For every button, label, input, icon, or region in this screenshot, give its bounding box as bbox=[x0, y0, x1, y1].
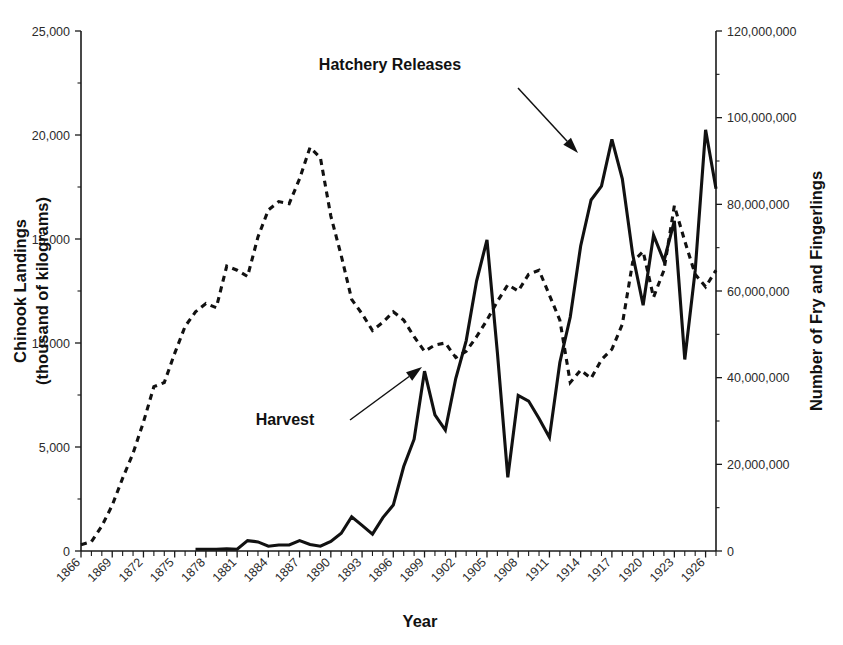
y-axis-title-line2: (thousand of kilograms) bbox=[33, 197, 51, 385]
x-tick-label: 1911 bbox=[523, 555, 552, 584]
series-hatchery-releases-line bbox=[196, 130, 716, 549]
x-tick-label: 1917 bbox=[584, 555, 614, 585]
x-tick-label: 1899 bbox=[397, 555, 427, 585]
chart-annotations: Hatchery ReleasesHarvest bbox=[256, 56, 578, 428]
y2-axis-title: Number of Fry and Fingerlings bbox=[807, 171, 825, 411]
left-tick-label: 0 bbox=[63, 545, 70, 559]
y-axis-title-line1: Chinook Landings bbox=[11, 219, 29, 363]
right-tick-label: 100,000,000 bbox=[727, 111, 797, 125]
x-tick-label: 1914 bbox=[553, 555, 583, 585]
x-tick-label: 1878 bbox=[178, 555, 208, 585]
x-tick-label: 1905 bbox=[460, 555, 490, 585]
left-tick-label: 20,000 bbox=[32, 129, 70, 143]
right-tick-label: 0 bbox=[727, 545, 734, 559]
right-tick-label: 60,000,000 bbox=[727, 285, 790, 299]
x-tick-label: 1866 bbox=[54, 555, 84, 585]
right-tick-label: 120,000,000 bbox=[727, 25, 797, 39]
annotation-label-hatchery-releases: Hatchery Releases bbox=[319, 56, 461, 73]
x-tick-label: 1923 bbox=[647, 555, 677, 585]
right-axis-ticks bbox=[716, 31, 722, 551]
chart-figure: 05,00010,00015,00020,00025,000 020,000,0… bbox=[0, 0, 843, 645]
x-tick-label: 1890 bbox=[303, 555, 333, 585]
x-tick-label: 1869 bbox=[85, 555, 115, 585]
x-tick-label: 1908 bbox=[491, 555, 521, 585]
annotation-arrow-line-hatchery-releases bbox=[518, 88, 567, 141]
x-axis-tick-labels: 1866186918721875187818811884188718901893… bbox=[54, 555, 708, 585]
right-tick-label: 40,000,000 bbox=[727, 371, 790, 385]
x-tick-label: 1902 bbox=[428, 555, 458, 585]
x-tick-label: 1881 bbox=[210, 555, 240, 585]
x-tick-label: 1884 bbox=[241, 555, 271, 585]
axis-lines bbox=[81, 31, 716, 551]
annotation-arrow-line-harvest bbox=[350, 376, 409, 420]
x-tick-label: 1926 bbox=[678, 555, 708, 585]
left-tick-label: 5,000 bbox=[39, 441, 70, 455]
annotation-label-harvest: Harvest bbox=[256, 411, 315, 428]
x-tick-label: 1896 bbox=[366, 555, 396, 585]
x-tick-label: 1887 bbox=[272, 555, 302, 585]
x-tick-label: 1872 bbox=[116, 555, 146, 585]
right-tick-label: 80,000,000 bbox=[727, 198, 790, 212]
right-tick-label: 20,000,000 bbox=[727, 458, 790, 472]
x-tick-label: 1920 bbox=[616, 555, 646, 585]
x-tick-label: 1893 bbox=[335, 555, 365, 585]
right-axis-tick-labels: 020,000,00040,000,00060,000,00080,000,00… bbox=[727, 25, 797, 559]
left-tick-label: 25,000 bbox=[32, 25, 70, 39]
x-tick-label: 1875 bbox=[147, 555, 177, 585]
x-axis-title: Year bbox=[403, 612, 438, 630]
x-axis-ticks bbox=[81, 551, 716, 558]
annotation-arrow-head-harvest bbox=[406, 367, 422, 381]
chart-canvas: 05,00010,00015,00020,00025,000 020,000,0… bbox=[0, 0, 843, 645]
